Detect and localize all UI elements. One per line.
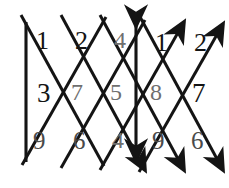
label-bottom-6: 6 [73, 128, 86, 153]
label-bottom-left-9: 9 [33, 128, 46, 153]
label-bottom-right-6: 6 [191, 128, 204, 153]
label-top-right-1: 1 [155, 30, 168, 56]
label-mid-left-3: 3 [37, 80, 51, 107]
label-top-center-4: 4 [114, 28, 126, 52]
label-top-right-2: 2 [194, 30, 207, 56]
line-lattice-figure: 1 2 4 1 2 3 7 5 8 7 9 6 4 9 6 [0, 0, 229, 188]
label-top-left-2: 2 [75, 28, 88, 54]
label-top-left-1: 1 [36, 28, 49, 54]
label-bottom-center-4: 4 [112, 128, 124, 152]
label-mid-7: 7 [71, 80, 83, 104]
label-mid-8: 8 [150, 80, 162, 104]
label-mid-right-7: 7 [192, 80, 206, 107]
label-mid-5: 5 [110, 80, 122, 104]
label-bottom-right-9: 9 [152, 128, 165, 153]
